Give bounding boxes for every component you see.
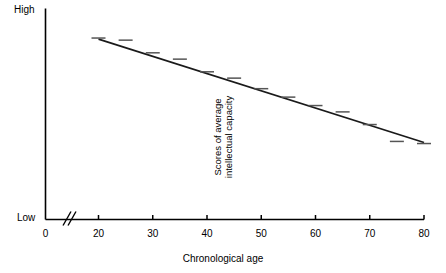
axis-break-icon — [63, 212, 76, 226]
x-tick-label-30: 30 — [147, 228, 158, 239]
y-axis-low-label: Low — [17, 212, 35, 224]
y-axis-high-label: High — [14, 4, 35, 16]
x-tick-label-0: 0 — [43, 228, 49, 239]
x-tick-label-40: 40 — [201, 228, 212, 239]
y-axis-title-line-2: intellectual capacity — [223, 95, 234, 177]
x-tick-label-70: 70 — [364, 228, 375, 239]
chart-container: High Low Scores of average intellectual … — [0, 0, 446, 273]
trend-line — [99, 39, 425, 142]
x-tick-label-20: 20 — [93, 228, 104, 239]
x-axis-title: Chronological age — [0, 253, 446, 265]
y-axis-title-line-1: Scores of average — [212, 98, 223, 175]
x-tick-label-80: 80 — [418, 228, 429, 239]
x-tick-label-60: 60 — [310, 228, 321, 239]
x-tick-label-50: 50 — [256, 228, 267, 239]
